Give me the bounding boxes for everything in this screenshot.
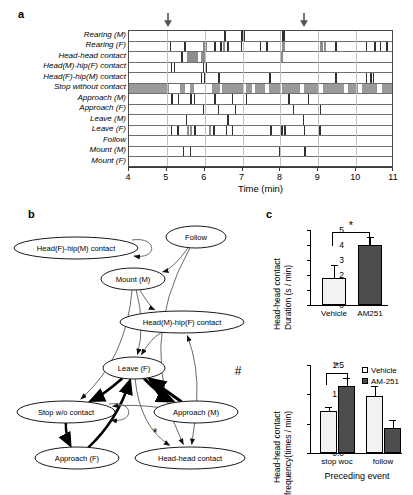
transition-graph: Head(F)-hip(M) contactFollowMount (M)Hea… (0, 200, 258, 495)
ethogram-event (335, 42, 337, 52)
ethogram-event (171, 126, 173, 136)
ethogram-event (246, 84, 253, 94)
ethogram-event (255, 84, 266, 94)
duration-chart: 012345VehicleAM251*Head-head contactDura… (310, 230, 413, 345)
transition-node-label: Mount (M) (116, 275, 151, 284)
ethogram-event (194, 126, 196, 136)
ethogram-row-label: Head(M)-hip(F) contact (43, 62, 126, 70)
y-axis-tick (307, 290, 310, 291)
transition-edge (92, 378, 123, 400)
ethogram-row (129, 115, 392, 126)
ethogram-event (190, 94, 192, 104)
transition-node-label: Stop w/o contact (38, 408, 95, 417)
bar-follow-vehicle (366, 396, 383, 453)
ethogram-row-label: Approach (F) (79, 104, 126, 112)
y-axis-label: Head-head contact (272, 411, 282, 483)
y-axis-tick-label: 3 (314, 255, 344, 265)
ethogram-event (270, 126, 272, 136)
ethogram-event (171, 94, 173, 104)
ethogram-event (183, 147, 185, 157)
legend-swatch (362, 367, 368, 373)
ethogram-event (246, 94, 247, 104)
error-bar-cap (389, 420, 396, 421)
transition-edge (187, 336, 197, 402)
ethogram-event (373, 73, 375, 83)
ethogram-row-label: Approach (M) (78, 94, 126, 102)
ethogram-event (220, 42, 222, 52)
error-bar (334, 265, 335, 278)
ethogram-event (214, 94, 216, 104)
panel-a-letter: a (18, 8, 24, 20)
ethogram-row-label: Leave (F) (92, 125, 126, 133)
error-bar-cap (331, 265, 338, 266)
ethogram-event (324, 42, 326, 52)
y-axis-line (310, 365, 311, 453)
panel-c-letter: c (266, 208, 272, 220)
x-axis-tick-label: 7 (239, 172, 244, 182)
x-axis-tick (242, 167, 243, 171)
panel-c-bar-charts: c 012345VehicleAM251*Head-head contactDu… (258, 200, 413, 495)
ethogram-row-label: Head(F)-hip(M) contact (43, 73, 126, 81)
ethogram-event (174, 63, 175, 73)
ethogram-event (232, 126, 234, 136)
transition-edge (81, 290, 132, 399)
ethogram-event (281, 126, 283, 136)
error-bar (370, 237, 371, 245)
bar-am251 (358, 245, 382, 305)
ethogram-row (129, 136, 392, 147)
error-bar-cap (371, 386, 378, 387)
bar-follow-am251 (384, 428, 401, 453)
ethogram-event (170, 42, 172, 52)
ethogram-event (323, 84, 344, 94)
ethogram-event (382, 84, 392, 94)
ethogram-event (129, 84, 169, 94)
ethogram-row (129, 147, 392, 158)
ethogram-event (218, 73, 220, 83)
x-axis-tick-label: 8 (277, 172, 282, 182)
x-axis-tick-label: 5 (163, 172, 168, 182)
y-axis-label: Head-head contact (272, 258, 282, 330)
ethogram-event (187, 126, 189, 136)
x-axis-tick (279, 167, 280, 171)
legend-label: AM-251 (371, 377, 399, 386)
transition-edge (66, 423, 70, 445)
ethogram-row-label: Mount (F) (91, 157, 126, 165)
ethogram-event (304, 126, 306, 136)
ethogram-row-label: Stop without contact (54, 83, 126, 91)
transition-node-label: Approach (F) (55, 454, 100, 463)
transition-node-label: Head(M)-hip(F) contact (143, 318, 222, 327)
significance-mark: # (235, 364, 242, 378)
ethogram-plot-area (128, 30, 393, 167)
y-axis-tick (307, 230, 310, 231)
x-axis-tick-label: 10 (350, 172, 360, 182)
ethogram-event (213, 126, 215, 136)
y-axis-tick (307, 275, 310, 276)
x-axis-line (128, 167, 393, 168)
significance-bracket (332, 232, 370, 246)
ethogram-gridline (318, 31, 319, 166)
y-axis-line (310, 230, 311, 305)
x-axis-tick (317, 167, 318, 171)
ethogram-event (260, 42, 262, 52)
transition-node-label: Leave (F) (118, 364, 151, 373)
x-axis-tick (166, 167, 167, 171)
y-axis-tick (307, 305, 310, 306)
bar-stopwoc-vehicle (320, 411, 337, 453)
ethogram-row-label: Mount (M) (90, 146, 126, 154)
significance-bracket (326, 373, 348, 385)
ethogram-event (288, 94, 290, 104)
y-axis-tick (307, 453, 310, 454)
legend-swatch (362, 378, 368, 384)
x-axis-tick-label: AM251 (357, 309, 382, 318)
transition-edge (192, 423, 195, 445)
ethogram-event (194, 94, 195, 104)
transition-edge (163, 248, 189, 272)
ethogram-gridline (167, 31, 168, 166)
ethogram-event (284, 31, 285, 41)
ethogram-event (212, 84, 220, 94)
ethogram-event (304, 84, 319, 94)
ethogram-row (129, 157, 392, 167)
ethogram-event (177, 126, 179, 136)
ethogram-event (269, 73, 271, 83)
ethogram-event (304, 147, 306, 157)
